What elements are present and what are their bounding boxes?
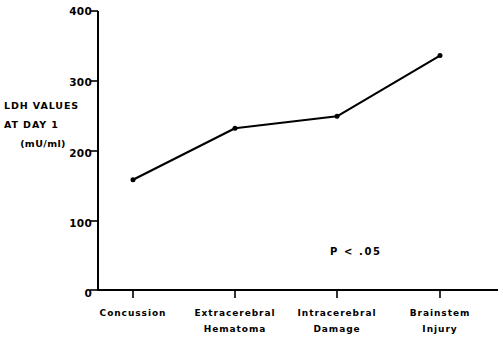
data-markers bbox=[131, 53, 443, 182]
data-point-3 bbox=[438, 53, 443, 58]
plot-area bbox=[0, 0, 503, 346]
data-series-line bbox=[133, 56, 440, 180]
y-axis-ticks bbox=[90, 11, 98, 290]
data-point-0 bbox=[131, 177, 136, 182]
data-point-2 bbox=[335, 114, 340, 119]
data-point-1 bbox=[233, 126, 238, 131]
axis-lines bbox=[97, 11, 498, 290]
ldh-line-chart: LDH VALUES AT DAY 1 (mU/ml) 400 300 200 … bbox=[0, 0, 503, 346]
x-axis-ticks bbox=[133, 290, 440, 298]
